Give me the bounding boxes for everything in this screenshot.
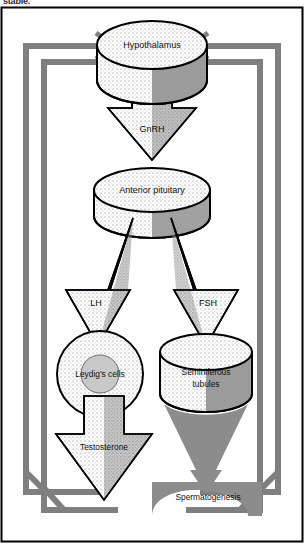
endocrine-axis-diagram: GnRH Hypothalamus Anterior pituitary LH (0, 0, 304, 544)
node-anterior-pituitary: Anterior pituitary (94, 168, 210, 238)
node-hypothalamus-label: Hypothalamus (123, 40, 181, 50)
arrow-gnrh-label: GnRH (139, 124, 164, 134)
node-hypothalamus: Hypothalamus (97, 21, 207, 104)
node-anterior-pituitary-label: Anterior pituitary (119, 185, 185, 195)
arrow-testosterone-label: Testosterone (80, 442, 128, 452)
node-spermatogenesis-label: Spermatogenesis (175, 492, 240, 502)
figure-container: stable. (0, 0, 304, 544)
node-leydig-cells-label: Leydig's cells (75, 369, 125, 379)
cutoff-caption-text: stable. (3, 0, 30, 6)
node-seminiferous-tubules-label-line2: tubules (192, 379, 219, 389)
arrow-lh-label: LH (90, 298, 102, 308)
arrow-fsh-label: FSH (199, 298, 217, 308)
node-seminiferous-tubules: Seminiferous tubules (160, 334, 252, 412)
node-seminiferous-tubules-label-line1: Seminiferous (182, 367, 231, 377)
